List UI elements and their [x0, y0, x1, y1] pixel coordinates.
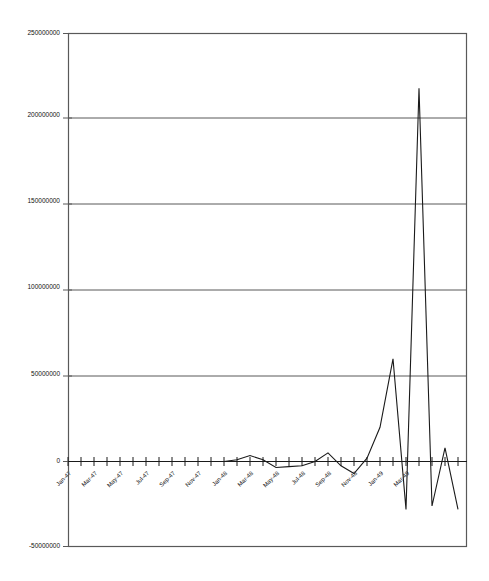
data-series-line — [68, 88, 458, 509]
y-axis-ticks — [63, 34, 72, 547]
chart-container: 250000000 200000000 150000000 100000000 … — [0, 0, 489, 581]
chart-plot — [0, 0, 489, 581]
